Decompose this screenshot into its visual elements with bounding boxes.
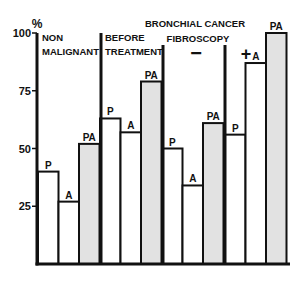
bar-chart: PAPAPAPAPAPAPAPA255075100%BRONCHIAL CANC… [0, 0, 305, 283]
chart-title: BRONCHIAL CANCER [145, 18, 245, 29]
bar-pa [266, 33, 287, 264]
bar-p [38, 172, 59, 264]
bar-p [225, 135, 246, 264]
y-tick-label: 25 [19, 200, 31, 212]
bar-label: PA [207, 111, 220, 122]
bar-label: P [45, 160, 52, 171]
bar-label: P [232, 123, 239, 134]
bar-pa [141, 82, 162, 264]
bar-p [162, 149, 183, 265]
fibroscopy-positive-label: + [241, 44, 252, 64]
bar-a [246, 63, 267, 264]
bar-p [100, 118, 121, 264]
bar-a [59, 202, 80, 264]
y-tick-label: 50 [19, 143, 31, 155]
bar-a [121, 132, 142, 264]
bar-a [183, 185, 204, 264]
bar-pa [79, 144, 100, 264]
bar-pa [203, 123, 224, 264]
bar-label: PA [145, 70, 158, 81]
group-label-non-malignant: MALIGNANT [42, 46, 99, 57]
bar-label: A [189, 173, 196, 184]
bar-label: A [127, 120, 134, 131]
group-label-before-treatment: BEFORE [105, 32, 145, 43]
group-label-before-treatment: TREATMENT [105, 46, 163, 57]
bar-label: P [107, 106, 114, 117]
group-label-non-malignant: NON [42, 32, 63, 43]
bar-label: P [169, 137, 176, 148]
y-tick-label: 75 [19, 85, 31, 97]
fibroscopy-negative-label: − [190, 42, 202, 64]
bar-label: A [252, 51, 259, 62]
y-tick-label: 100 [13, 27, 31, 39]
bar-label: PA [83, 132, 96, 143]
bar-label: A [65, 190, 72, 201]
bar-label: PA [270, 21, 283, 32]
y-axis-label: % [32, 17, 43, 31]
